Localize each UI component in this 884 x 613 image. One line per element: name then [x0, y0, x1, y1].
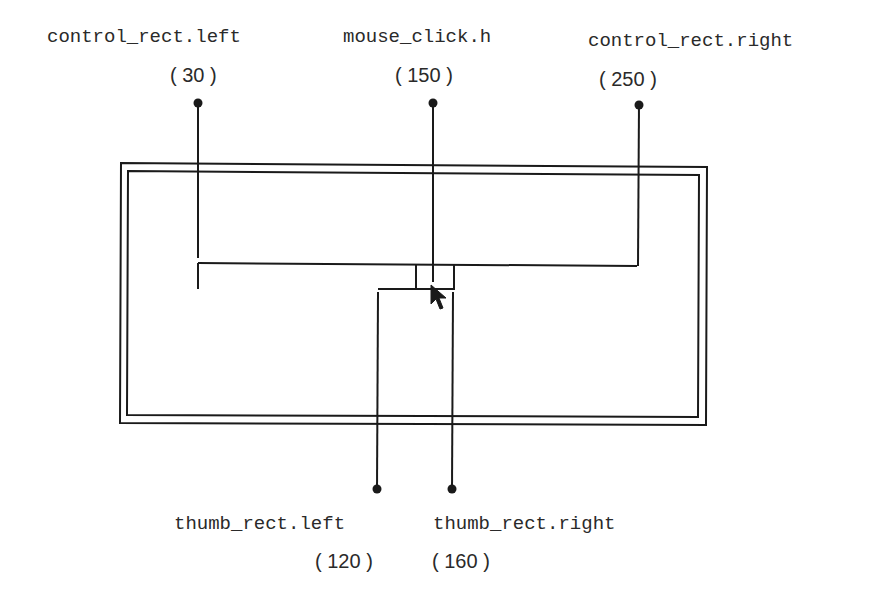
mouse-click-value: ( 150 ) [395, 64, 453, 87]
thumb-right-leader [452, 292, 453, 488]
control-frame-inner [127, 171, 699, 417]
control-right-label: control_rect.right [588, 30, 793, 52]
control-left-dot [194, 99, 203, 108]
control-frame-outer [120, 163, 707, 425]
track-line [198, 263, 637, 266]
thumb-left-label: thumb_rect.left [174, 513, 345, 535]
thumb-box [416, 265, 454, 289]
thumb-right-label: thumb_rect.right [433, 513, 615, 535]
control-right-dot [635, 101, 644, 110]
control-right-leader [638, 104, 639, 266]
control-left-label: control_rect.left [47, 26, 241, 48]
thumb-left-value: ( 120 ) [315, 550, 373, 573]
thumb-right-dot [448, 485, 457, 494]
control-left-value: ( 30 ) [170, 64, 217, 87]
control-right-value: ( 250 ) [599, 68, 657, 91]
thumb-left-leader [377, 292, 378, 488]
mouse-click-dot [429, 99, 438, 108]
thumb-left-dot [373, 485, 382, 494]
thumb-right-value: ( 160 ) [432, 550, 490, 573]
mouse-click-label: mouse_click.h [343, 26, 491, 48]
